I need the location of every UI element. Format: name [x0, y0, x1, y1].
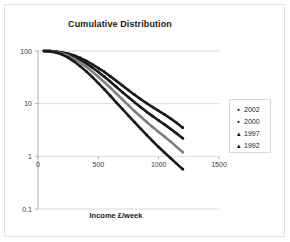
legend-item-1997[interactable]: ▴ 1997	[234, 127, 270, 139]
data-point-2000	[139, 106, 142, 109]
data-point-1992	[151, 140, 154, 143]
data-point-1992	[139, 127, 142, 130]
data-point-1992	[67, 56, 70, 59]
data-point-1997	[145, 121, 148, 124]
data-point-2002	[103, 71, 106, 74]
data-point-1997	[127, 104, 130, 107]
legend-item-1992[interactable]: ▴ 1992	[234, 139, 270, 151]
data-point-2000	[163, 123, 166, 126]
data-point-2002	[181, 126, 184, 129]
data-point-2000	[145, 110, 148, 113]
x-axis-title: Income £/week	[5, 211, 227, 220]
data-point-2002	[145, 102, 148, 105]
legend-marker-triangle-icon: ▴	[234, 142, 243, 149]
data-point-1992	[79, 65, 82, 68]
data-point-2000	[115, 86, 118, 89]
legend-label-1992: 1992	[244, 142, 260, 149]
data-point-1992	[175, 162, 178, 165]
data-point-1992	[91, 76, 94, 79]
data-point-2000	[151, 115, 154, 118]
data-point-1997	[175, 146, 178, 149]
data-point-2002	[127, 89, 130, 92]
data-point-2000	[181, 137, 184, 140]
data-point-1997	[103, 81, 106, 84]
data-series-group	[43, 50, 184, 171]
y-tick-label: 10	[24, 100, 32, 107]
data-point-1997	[157, 131, 160, 134]
data-point-1992	[163, 151, 166, 154]
data-point-1992	[43, 50, 46, 53]
data-point-1992	[169, 157, 172, 160]
data-point-1992	[127, 114, 130, 117]
x-tick-label: 500	[92, 161, 104, 168]
data-point-2002	[97, 67, 100, 70]
data-point-1992	[49, 50, 52, 53]
data-point-2000	[103, 75, 106, 78]
data-point-1992	[109, 95, 112, 98]
legend-label-2002: 2002	[244, 106, 260, 113]
data-point-1997	[163, 135, 166, 138]
data-point-2000	[85, 62, 88, 65]
data-point-2002	[91, 63, 94, 66]
data-point-2002	[139, 98, 142, 101]
data-point-2002	[163, 113, 166, 116]
data-point-1992	[115, 101, 118, 104]
y-tick-label: 100	[20, 48, 32, 55]
data-point-1992	[157, 146, 160, 149]
data-point-1997	[121, 98, 124, 101]
legend-marker-square-icon: ▪	[234, 106, 243, 113]
legend-item-2000[interactable]: ▪ 2000	[234, 115, 270, 127]
data-point-1997	[109, 86, 112, 89]
data-point-1992	[121, 108, 124, 111]
data-point-2002	[169, 117, 172, 120]
data-point-2002	[157, 110, 160, 113]
data-point-1997	[151, 126, 154, 129]
data-point-1997	[115, 92, 118, 95]
data-point-1992	[61, 53, 64, 56]
x-tick-label: 0	[36, 161, 40, 168]
data-point-1992	[133, 121, 136, 124]
data-point-2000	[133, 101, 136, 104]
data-point-1992	[55, 51, 58, 54]
series-line-1997	[44, 51, 183, 152]
x-tick-label: 1000	[151, 161, 167, 168]
series-line-1992	[44, 51, 183, 169]
data-point-2000	[109, 80, 112, 83]
data-point-1997	[139, 115, 142, 118]
data-point-1997	[133, 110, 136, 113]
data-point-2000	[169, 128, 172, 131]
legend-label-2000: 2000	[244, 118, 260, 125]
data-point-1992	[73, 60, 76, 63]
data-point-2002	[133, 93, 136, 96]
data-point-2000	[121, 91, 124, 94]
data-point-2002	[121, 84, 124, 87]
data-point-1992	[85, 70, 88, 73]
data-point-2000	[127, 96, 130, 99]
legend-label-1997: 1997	[244, 130, 260, 137]
data-point-1997	[181, 151, 184, 154]
data-point-1992	[97, 82, 100, 85]
legend-item-2002[interactable]: ▪ 2002	[234, 103, 270, 115]
data-point-2002	[151, 106, 154, 109]
data-point-1997	[169, 140, 172, 143]
data-point-2000	[157, 119, 160, 122]
data-point-2002	[175, 122, 178, 125]
data-point-2000	[91, 66, 94, 69]
data-point-2000	[175, 132, 178, 135]
data-point-1992	[103, 88, 106, 91]
data-point-1992	[145, 134, 148, 137]
series-line-2000	[44, 51, 183, 138]
data-point-2002	[115, 80, 118, 83]
chart-container: Cumulative Distribution 1001010.1 050010…	[4, 4, 285, 237]
legend-marker-triangle-icon: ▴	[234, 130, 243, 137]
x-tick-label: 1500	[211, 161, 227, 168]
legend-marker-square-icon: ▪	[234, 118, 243, 125]
data-point-2000	[97, 71, 100, 74]
data-point-1997	[85, 66, 88, 69]
data-point-1992	[181, 168, 184, 171]
x-axis-ticks: 050010001500	[36, 156, 227, 168]
data-point-1997	[97, 75, 100, 78]
y-axis-ticks: 1001010.1	[20, 48, 38, 213]
legend: ▪ 2002 ▪ 2000 ▴ 1997 ▴ 1992	[229, 99, 271, 153]
y-tick-label: 1	[28, 153, 32, 160]
